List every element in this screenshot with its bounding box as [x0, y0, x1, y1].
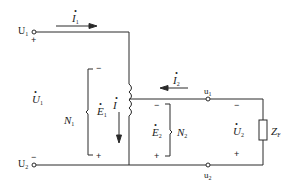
winding-n2-label: N2 — [177, 127, 187, 139]
terminal-u1 — [206, 97, 210, 101]
load-impedance — [259, 120, 267, 140]
terminal-U1 — [32, 30, 36, 34]
e1-bottom-sign: + — [96, 152, 101, 161]
circuit-wires — [0, 0, 291, 191]
e2-top-sign: − — [154, 101, 159, 110]
current-i-label: •I — [113, 100, 117, 111]
terminal-u1-label: u1 — [204, 87, 212, 97]
terminal-U1-label: U1 — [18, 26, 28, 37]
voltage-e2-label: •E2 — [152, 127, 162, 139]
current-i2-label: •I2 — [173, 75, 180, 87]
arrowhead-right-icon — [89, 24, 97, 29]
terminal-U2-label: U2 — [18, 159, 28, 170]
voltage-u1-label: •U1 — [32, 94, 43, 106]
winding-n1-label: N1 — [64, 115, 74, 127]
arrowhead-left-icon — [160, 86, 168, 91]
winding-coil — [129, 84, 132, 116]
terminal-U1-polarity: + — [31, 36, 36, 45]
current-i1-label: •I1 — [72, 13, 79, 25]
e2-bottom-sign: + — [154, 152, 159, 161]
load-zf-label: ZF — [271, 126, 280, 138]
u2-top-sign: − — [234, 101, 239, 110]
terminal-U2-polarity: − — [31, 153, 36, 162]
n1-brace — [86, 69, 93, 155]
e1-top-sign: − — [96, 64, 101, 73]
u2-bottom-sign: + — [234, 150, 239, 159]
terminal-u2-label: u2 — [204, 171, 212, 181]
n2-brace — [165, 104, 172, 156]
autotransformer-circuit-diagram: U1 + U2 − u1 u2 •I1 •I2 •I •U1 − •E1 + −… — [0, 0, 291, 191]
voltage-u2-label: •U2 — [233, 126, 244, 138]
arrowhead-down-icon — [117, 135, 122, 143]
voltage-e1-label: •E1 — [97, 106, 107, 118]
terminal-U2 — [32, 163, 36, 167]
terminal-u2 — [206, 163, 210, 167]
